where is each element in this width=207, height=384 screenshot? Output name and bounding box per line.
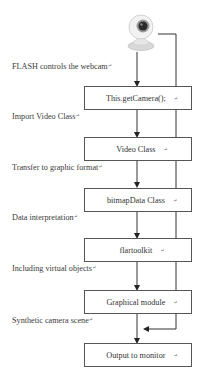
step-label-5: Including virtual objects↵: [12, 264, 96, 273]
step-box-graphical-module: Graphical module↵: [84, 290, 192, 314]
step-box-video-class: Video Class↵: [84, 137, 192, 161]
step-label-6: Synthetic camera scene↵: [12, 316, 93, 325]
step-label-2: Import Video Class↵: [12, 112, 80, 121]
step-box-bitmapdata-class: bitmapData Class↵: [84, 188, 192, 212]
step-label-4: Data interpretation↵: [12, 213, 78, 222]
step-label-3: Transfer to graphic format↵: [12, 163, 103, 172]
step-label-1: FLASH controls the webcam↵: [12, 62, 112, 71]
webcam-icon: [122, 12, 160, 52]
step-box-output-to-monitor: Output to monitor↵: [84, 343, 192, 367]
step-box-flartoolkit: flartoolkit↵: [84, 238, 192, 262]
step-box-get-camera: This.getCamera();↵: [84, 86, 192, 110]
